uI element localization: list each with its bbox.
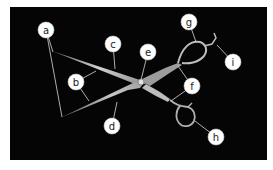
label-b: b — [73, 77, 79, 88]
label-i: i — [232, 57, 235, 68]
upper-shank — [140, 63, 182, 86]
label-h: h — [213, 132, 219, 143]
label-e: e — [145, 47, 151, 58]
label-c: c — [110, 39, 116, 50]
label-d: d — [109, 121, 115, 132]
finger-rest — [204, 33, 216, 46]
label-f: f — [190, 81, 194, 92]
thumb-tang — [188, 103, 192, 107]
scissors-diagram: abcdefghi — [0, 0, 273, 170]
leader-line-a — [46, 30, 62, 117]
label-a: a — [43, 25, 49, 36]
label-g: g — [186, 17, 192, 28]
upper-blade — [52, 51, 152, 84]
lower-shank — [142, 84, 170, 102]
upper-finger-ring — [178, 42, 206, 64]
